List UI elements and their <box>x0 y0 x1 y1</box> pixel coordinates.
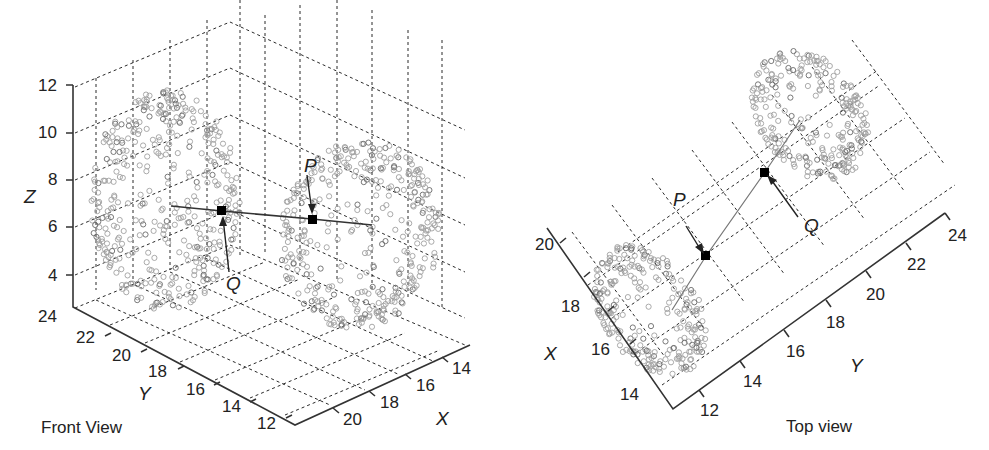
z-tick-10: 10 <box>38 123 57 142</box>
top-y-tick-14: 14 <box>743 372 762 391</box>
z-tick-6: 6 <box>48 217 57 236</box>
top-x-tick-18: 18 <box>561 297 580 316</box>
front-p-label: P <box>304 155 317 176</box>
y-tick-24: 24 <box>38 307 57 326</box>
figure: 12 10 8 6 4 Z 24 22 20 18 16 14 12 Y 14 … <box>0 0 989 450</box>
top-y-tick-18: 18 <box>826 313 845 332</box>
y-tick-12: 12 <box>257 414 276 433</box>
x-axis-label: X <box>435 408 450 429</box>
front-p-arrow-icon <box>308 204 316 214</box>
top-y-tick-20: 20 <box>866 285 885 304</box>
x-tick-20: 20 <box>343 410 362 429</box>
top-view-chart: 20 18 16 14 X 12 14 16 18 20 22 24 Y P Q… <box>535 40 967 436</box>
y-tick-20: 20 <box>112 346 131 365</box>
z-tick-12: 12 <box>38 76 57 95</box>
front-point-p <box>308 215 317 224</box>
top-x-axis-label: X <box>543 343 558 364</box>
front-view-chart: 12 10 8 6 4 Z 24 22 20 18 16 14 12 Y 14 … <box>23 0 471 437</box>
top-q-label: Q <box>804 215 819 236</box>
x-tick-14: 14 <box>452 359 471 378</box>
front-q-label: Q <box>226 273 241 294</box>
top-y-tick-24: 24 <box>948 226 967 245</box>
top-x-tick-16: 16 <box>591 340 610 359</box>
top-view-caption: Top view <box>786 417 853 436</box>
y-tick-22: 22 <box>76 328 95 347</box>
top-y-tick-16: 16 <box>786 342 805 361</box>
y-axis-label: Y <box>138 383 152 404</box>
top-x-tick-14: 14 <box>620 385 639 404</box>
y-tick-18: 18 <box>148 362 167 381</box>
y-tick-14: 14 <box>222 397 241 416</box>
top-y-tick-22: 22 <box>907 255 926 274</box>
z-tick-4: 4 <box>48 266 57 285</box>
front-qp-line <box>171 206 372 225</box>
top-x-tick-20: 20 <box>535 235 554 254</box>
z-tick-8: 8 <box>48 170 57 189</box>
z-axis-label: Z <box>23 186 37 207</box>
top-y-tick-12: 12 <box>700 401 719 420</box>
top-p-arrow-icon <box>695 243 704 254</box>
top-y-axis-label: Y <box>850 355 864 376</box>
x-tick-18: 18 <box>380 393 399 412</box>
top-p-label: P <box>673 189 686 210</box>
y-tick-16: 16 <box>186 380 205 399</box>
x-tick-16: 16 <box>416 376 435 395</box>
front-view-caption: Front View <box>41 418 123 437</box>
front-grid <box>75 0 465 415</box>
top-grid <box>572 40 955 385</box>
top-pq-line <box>672 120 800 310</box>
front-point-q <box>217 206 226 215</box>
